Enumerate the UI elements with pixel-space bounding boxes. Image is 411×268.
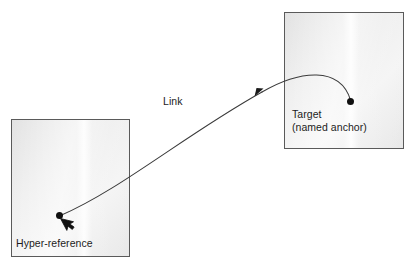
- diagram-canvas: Hyper-reference Target (named anchor) Li…: [0, 0, 411, 268]
- mouse-cursor-icon: [61, 214, 77, 232]
- cursor-layer: [0, 0, 411, 268]
